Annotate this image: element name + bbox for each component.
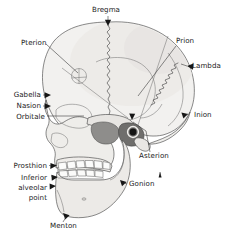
label-bregma[interactable]: Bregma [92, 5, 120, 14]
arrow-inferior-alveolar2 [50, 183, 56, 189]
label-gabella[interactable]: Gabella [14, 90, 41, 99]
label-orbitale[interactable]: Orbitale [16, 112, 45, 121]
lower-teeth [59, 170, 103, 178]
label-nasion[interactable]: Nasion [17, 101, 41, 110]
label-menton[interactable]: Menton [50, 221, 77, 230]
vault-shading [70, 18, 194, 106]
label-inferior-alveolar-line2: alveolar [18, 183, 47, 192]
skull-diagram-svg: Bregma Pterion Prion Lambda Gabella Nasi… [0, 0, 228, 234]
label-inferior-alveolar-line1: Inferior [21, 173, 47, 182]
label-inferior-alveolar-line3: point [29, 193, 48, 202]
label-lambda[interactable]: Lambda [192, 61, 221, 70]
label-inion[interactable]: Inion [194, 110, 212, 119]
skull-illustration [42, 18, 194, 218]
label-prosthion[interactable]: Prosthion [14, 161, 47, 170]
mental-foramen [82, 198, 86, 201]
label-prion[interactable]: Prion [176, 36, 194, 45]
label-pterion[interactable]: Pterion [21, 38, 47, 47]
label-inferior-alveolar-point[interactable]: Inferior alveolar point [18, 173, 47, 202]
skull-landmarks-figure: Bregma Pterion Prion Lambda Gabella Nasi… [0, 0, 228, 234]
label-gonion[interactable]: Gonion [129, 179, 154, 188]
auditory-meatus [130, 129, 137, 136]
label-asterion[interactable]: Asterion [139, 151, 169, 160]
